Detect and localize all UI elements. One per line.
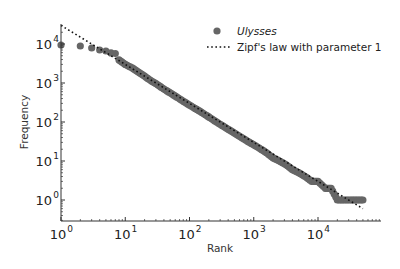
y-tick-exponent: 2 [53,112,59,122]
x-tick-label: 10 [307,227,324,242]
x-tick-exponent: 3 [260,224,266,234]
legend-label-ulysses: Ulysses [237,25,277,37]
y-tick-exponent: 3 [53,73,59,83]
data-point [359,196,366,203]
y-axis-label: Frequency [18,95,30,149]
legend-label-zipf: Zipf's law with parameter 1 [237,41,382,53]
y-tick-exponent: 1 [53,151,59,161]
x-tick-label: 10 [178,227,195,242]
x-tick-label: 10 [50,227,67,242]
y-tick-label: 10 [35,193,52,208]
y-tick-exponent: 4 [53,34,59,44]
y-tick-label: 10 [35,76,52,91]
y-tick-label: 10 [35,37,52,52]
x-tick-exponent: 2 [196,224,202,234]
y-tick-exponent: 0 [53,190,59,200]
x-tick-exponent: 4 [324,224,330,234]
x-tick-label: 10 [114,227,131,242]
data-point [77,42,84,49]
legend-marker-ulysses [213,27,220,34]
x-tick-exponent: 0 [67,224,73,234]
y-tick-label: 10 [35,154,52,169]
axes: 100101102103104100101102103104 [35,24,381,242]
x-tick-exponent: 1 [131,224,137,234]
zipf-chart: 100101102103104100101102103104 Ulysses Z… [0,0,400,269]
x-tick-label: 10 [242,227,259,242]
legend: Ulysses Zipf's law with parameter 1 [207,25,382,53]
x-axis-label: Rank [207,242,234,254]
y-tick-label: 10 [35,115,52,130]
